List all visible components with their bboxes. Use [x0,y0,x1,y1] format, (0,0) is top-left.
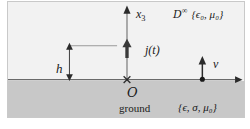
normal-vector-basepoint-dot [200,77,205,82]
ground-label: ground [119,103,150,114]
horizontal-axis-arrowhead [235,76,242,83]
vertical-axis-arrowhead [123,5,130,13]
upper-domain-label: D∞{ϵ₀, μ₀} [173,7,223,20]
vertical-axis-label: x3 [136,8,146,24]
source-current-label: j(t) [145,44,160,56]
origin-label: O [127,86,138,99]
height-dimension-arrow [66,43,73,81]
ground-constants-label: {ϵ, σ, μ₀} [178,102,217,113]
upper-domain-superscript: ∞ [182,6,188,15]
normal-vector-label: ν [213,58,218,70]
upper-domain-symbol: D [173,8,182,21]
figure-canvas: x3 D∞{ϵ₀, μ₀} j(t) h ν O ground {ϵ, σ, μ… [7,1,245,118]
source-current-arrow [122,39,131,58]
upper-domain-constants: {ϵ₀, μ₀} [191,8,223,20]
normal-vector-arrow [199,56,207,82]
height-label: h [56,62,63,75]
vertical-axis-label-subscript: 3 [141,14,145,23]
